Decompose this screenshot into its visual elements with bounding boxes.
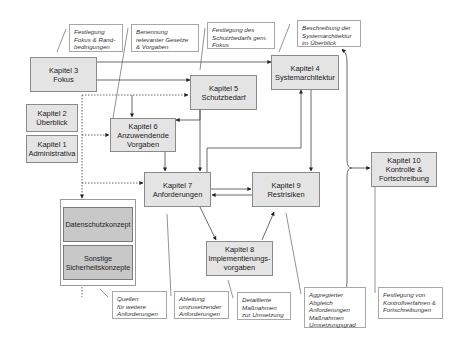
- note-massnahmen: Detaillierte Maßnahmen zur Umsetzung: [237, 292, 291, 320]
- note-gesetze: Benennung relevanter Gesetze & Vorgaben: [131, 24, 199, 52]
- chapter-subtitle: Überblick: [36, 118, 67, 127]
- chapter-7-anforderungen: Kapitel 7 Anforderungen: [144, 172, 211, 207]
- note-line: Aggregierter: [309, 291, 361, 299]
- note-line: Anforderungen: [179, 310, 224, 318]
- note-aggregiert: Aggregierter Abgleich Anforderungen Maßn…: [304, 287, 366, 328]
- chapter-subtitle: Vorgaben: [127, 140, 159, 149]
- note-line: Fokus & Rand-: [74, 36, 118, 44]
- chapter-2-ueberblick: Kapitel 2 Überblick: [26, 104, 78, 132]
- note-line: Schutzbedarfs gem.: [212, 34, 270, 42]
- note-ableitung: Ableitung umzusetzender Anforderungen: [174, 291, 229, 319]
- chapter-title: Kapitel 9: [271, 181, 300, 190]
- note-line: zur Umsetzung: [242, 311, 286, 319]
- chapter-title: Kapitel 4: [290, 64, 319, 73]
- concepts-container: Datenschutzkonzept Sonstige Sicherheitsk…: [60, 199, 136, 286]
- chapter-title: Kapitel 7: [163, 181, 192, 190]
- chapter-title: Kapitel 6: [128, 122, 157, 131]
- note-line: relevanter Gesetze: [136, 36, 194, 44]
- chapter-subtitle: Administrativa: [28, 149, 75, 158]
- note-line: Anforderungen: [117, 310, 162, 318]
- chapter-subtitle: Systemarchitektur: [275, 73, 335, 82]
- note-line: Abgleich: [309, 299, 361, 307]
- chapter-title: Kapitel 8: [225, 245, 254, 254]
- chapter-1-administrativa: Kapitel 1 Administrativa: [26, 135, 78, 163]
- concept-label: Sicherheitskonzepte: [66, 263, 131, 272]
- note-line: für weitere: [117, 303, 162, 311]
- chapter-subtitle: Anzuwendende: [117, 131, 169, 140]
- chapter-8-implementierung: Kapitel 8 Implementierungs- vorgaben: [206, 241, 273, 276]
- note-line: Detaillierte: [242, 296, 286, 304]
- chapter-title: Kapitel 2: [37, 109, 66, 118]
- note-line: Fortschreibungen: [383, 306, 438, 314]
- note-line: Festlegung des: [212, 26, 270, 34]
- note-line: Maßnahmen: [242, 304, 286, 312]
- note-line: Festlegung von: [383, 291, 438, 299]
- chapter-subtitle: Anforderungen: [153, 190, 203, 199]
- chapter-subtitle: Schutzbedarf: [201, 93, 245, 102]
- note-line: im Überblick: [302, 39, 356, 47]
- note-fokus: Festlegung Fokus & Rand- bedingungen: [69, 24, 123, 52]
- chapter-subtitle: Kontrolle &: [386, 165, 423, 174]
- concept-sicherheit: Sonstige Sicherheitskonzepte: [63, 245, 133, 280]
- note-line: Umsetzungsgrad: [309, 321, 361, 329]
- note-line: Fokus: [212, 41, 270, 49]
- note-line: Maßnahmen: [309, 314, 361, 322]
- concept-label: Datenschutzkonzept: [65, 220, 130, 229]
- chapter-4-systemarchitektur: Kapitel 4 Systemarchitektur: [271, 55, 339, 90]
- chapter-title: Kapitel 5: [209, 84, 238, 93]
- concept-datenschutz: Datenschutzkonzept: [63, 207, 133, 242]
- note-line: Kontrollverfahren &: [383, 299, 438, 307]
- chapter-10-kontrolle: Kapitel 10 Kontrolle & Fortschreibung: [371, 152, 437, 187]
- chapter-subtitle: Fokus: [53, 75, 73, 84]
- note-line: Anforderungen: [309, 306, 361, 314]
- chapter-subtitle: vorgaben: [224, 263, 255, 272]
- concept-label: Sonstige: [84, 254, 112, 263]
- note-quellen: Quellen für weitere Anforderungen: [112, 291, 167, 319]
- chapter-title: Kapitel 1: [37, 140, 66, 149]
- chapter-subtitle: Implementierungs-: [208, 254, 270, 263]
- chapter-9-restrisiken: Kapitel 9 Restrisiken: [252, 172, 320, 207]
- chapter-3-fokus: Kapitel 3 Fokus: [30, 57, 97, 92]
- note-line: umzusetzender: [179, 303, 224, 311]
- note-line: bedingungen: [74, 43, 118, 51]
- note-line: & Vorgaben: [136, 43, 194, 51]
- chapter-title: Kapitel 10: [387, 156, 420, 165]
- note-line: Systemarchitektur: [302, 32, 356, 40]
- chapter-5-schutzbedarf: Kapitel 5 Schutzbedarf: [190, 75, 257, 110]
- note-schutzbedarf: Festlegung des Schutzbedarfs gem. Fokus: [207, 22, 275, 49]
- chapter-6-vorgaben: Kapitel 6 Anzuwendende Vorgaben: [110, 118, 176, 152]
- chapter-title: Kapitel 3: [49, 66, 78, 75]
- note-kontrolle: Festlegung von Kontrollverfahren & Forts…: [378, 287, 443, 319]
- note-line: Benennung: [136, 28, 194, 36]
- note-systemarchitektur: Beschreibung der Systemarchitektur im Üb…: [297, 20, 361, 47]
- note-line: Quellen: [117, 295, 162, 303]
- note-line: Ableitung: [179, 295, 224, 303]
- note-line: Beschreibung der: [302, 24, 356, 32]
- note-line: Festlegung: [74, 28, 118, 36]
- chapter-subtitle: Fortschreibung: [379, 174, 429, 183]
- chapter-subtitle: Restrisiken: [267, 190, 304, 199]
